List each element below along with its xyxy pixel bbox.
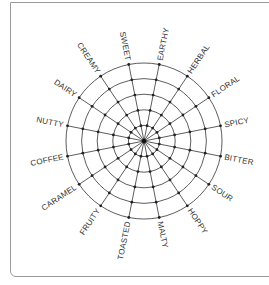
axis-label-herbal: HERBAL xyxy=(186,42,212,75)
radar-node xyxy=(117,157,120,160)
radar-node xyxy=(158,63,161,66)
radar-node xyxy=(127,143,130,146)
radar-node xyxy=(91,174,94,177)
radar-node xyxy=(134,127,137,130)
radar-node xyxy=(133,186,136,189)
radar-node xyxy=(160,166,163,169)
axis-label-nutty: NUTTY xyxy=(36,115,65,129)
radar-node xyxy=(194,174,197,177)
radar-node xyxy=(186,75,189,78)
radar-node xyxy=(108,88,111,91)
radar-node xyxy=(66,155,69,158)
axis-label-malty: MALTY xyxy=(156,221,170,250)
radar-node xyxy=(130,201,133,204)
radar-node xyxy=(133,94,136,97)
radar-node xyxy=(146,124,149,127)
radar-node xyxy=(169,122,172,125)
radar-center-dot xyxy=(142,139,146,143)
flavor-radar-chart: SWEETEARTHYHERBALFLORALSPICYBITTERSOURHO… xyxy=(0,0,269,285)
radar-node xyxy=(134,153,137,156)
axis-label-hoppy: HOPPY xyxy=(186,207,210,237)
radar-node xyxy=(99,75,102,78)
radar-node xyxy=(125,114,128,117)
radar-node xyxy=(194,105,197,108)
radar-node xyxy=(156,131,159,134)
radar-node xyxy=(149,109,152,112)
radar-node xyxy=(127,216,130,219)
radar-node xyxy=(78,183,81,186)
radar-node xyxy=(177,88,180,91)
axis-label-sour: SOUR xyxy=(210,183,235,204)
axis-label-caramel: CARAMEL xyxy=(40,183,79,213)
radar-node xyxy=(151,153,154,156)
radar-node xyxy=(207,96,210,99)
radar-node xyxy=(104,166,107,169)
radar-node xyxy=(182,166,185,169)
radar-node xyxy=(204,152,207,155)
axis-label-fruity: FRUITY xyxy=(78,206,102,236)
axis-label-earthy: EARTHY xyxy=(156,26,171,61)
radar-node xyxy=(137,170,140,173)
radar-node xyxy=(104,114,107,117)
radar-node xyxy=(127,137,130,140)
radar-node xyxy=(117,122,120,125)
radar-node xyxy=(81,152,84,155)
radar-node xyxy=(219,124,222,127)
radar-node xyxy=(125,166,128,169)
radar-node xyxy=(182,114,185,117)
radar-node xyxy=(169,179,172,182)
radar-node xyxy=(97,130,100,133)
radar-node xyxy=(173,134,176,137)
radar-node xyxy=(186,204,189,207)
radar-node xyxy=(112,146,115,149)
radar-node xyxy=(155,78,158,81)
radar-node xyxy=(78,96,81,99)
radar-node xyxy=(140,124,143,127)
axis-label-bitter: BITTER xyxy=(224,153,255,168)
radar-node xyxy=(91,105,94,108)
radar-node xyxy=(127,63,130,66)
axis-label-creamy: CREAMY xyxy=(75,41,102,76)
axis-label-sweet: SWEET xyxy=(118,31,133,62)
axis-label-coffee: COFFEE xyxy=(30,153,65,168)
radar-node xyxy=(207,183,210,186)
radar-node xyxy=(146,155,149,158)
radar-node xyxy=(160,114,163,117)
radar-node xyxy=(158,216,161,219)
axis-label-spicy: SPICY xyxy=(224,116,251,130)
radar-node xyxy=(130,131,133,134)
radar-node xyxy=(173,146,176,149)
radar-node xyxy=(130,78,133,81)
radar-node xyxy=(219,155,222,158)
radar-node xyxy=(204,127,207,130)
radar-node xyxy=(189,130,192,133)
radar-node xyxy=(66,124,69,127)
radar-node xyxy=(99,204,102,207)
axis-label-toasted: TOASTED xyxy=(116,221,132,261)
radar-node xyxy=(117,179,120,182)
radar-node xyxy=(169,101,172,104)
radar-node xyxy=(140,155,143,158)
radar-node xyxy=(152,186,155,189)
radar-node xyxy=(158,137,161,140)
radar-node xyxy=(112,134,115,137)
radar-node xyxy=(130,148,133,151)
radar-node xyxy=(117,101,120,104)
radar-node xyxy=(177,191,180,194)
radar-node xyxy=(151,127,154,130)
axis-label-dairy: DAIRY xyxy=(52,78,78,100)
radar-node xyxy=(137,109,140,112)
radar-node xyxy=(156,148,159,151)
radar-node xyxy=(155,201,158,204)
radar-node xyxy=(81,127,84,130)
radar-node xyxy=(152,94,155,97)
radar-node xyxy=(97,149,100,152)
radar-node xyxy=(108,191,111,194)
radar-node xyxy=(169,157,172,160)
radar-node xyxy=(149,170,152,173)
radar-node xyxy=(189,149,192,152)
axis-label-floral: FLORAL xyxy=(210,74,242,100)
radar-node xyxy=(158,143,161,146)
